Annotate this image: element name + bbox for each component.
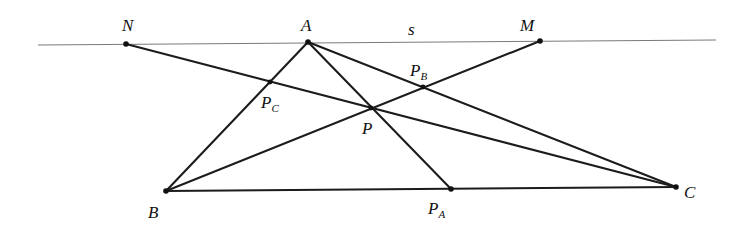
point-b (163, 188, 169, 194)
point-label-pc: PC (260, 93, 279, 114)
point-pc (268, 80, 273, 85)
point-n (123, 41, 129, 47)
point-pa (448, 186, 454, 192)
segment-a-pa (308, 42, 451, 189)
line-s-label: s (408, 20, 415, 39)
point-label-c: C (684, 183, 696, 202)
point-label-p: P (361, 119, 372, 138)
point-c (673, 184, 679, 190)
geometry-diagram: sNAMBCPPAPBPC (0, 0, 736, 231)
point-a (305, 39, 311, 45)
point-pb (421, 85, 426, 90)
segment-a-b (166, 42, 308, 191)
point-label-m: M (519, 16, 535, 35)
line-s (38, 40, 716, 45)
segment-a-c (308, 42, 676, 187)
point-m (537, 38, 543, 44)
point-p (369, 106, 374, 111)
point-label-a: A (300, 16, 312, 35)
point-label-n: N (121, 16, 135, 35)
lines-layer (38, 40, 716, 191)
point-label-b: B (148, 203, 159, 222)
segment-b-c (166, 187, 676, 191)
segment-b-m (166, 41, 540, 191)
segment-n-c (126, 44, 676, 187)
point-label-pa: PA (427, 199, 445, 220)
point-label-pb: PB (409, 61, 427, 82)
